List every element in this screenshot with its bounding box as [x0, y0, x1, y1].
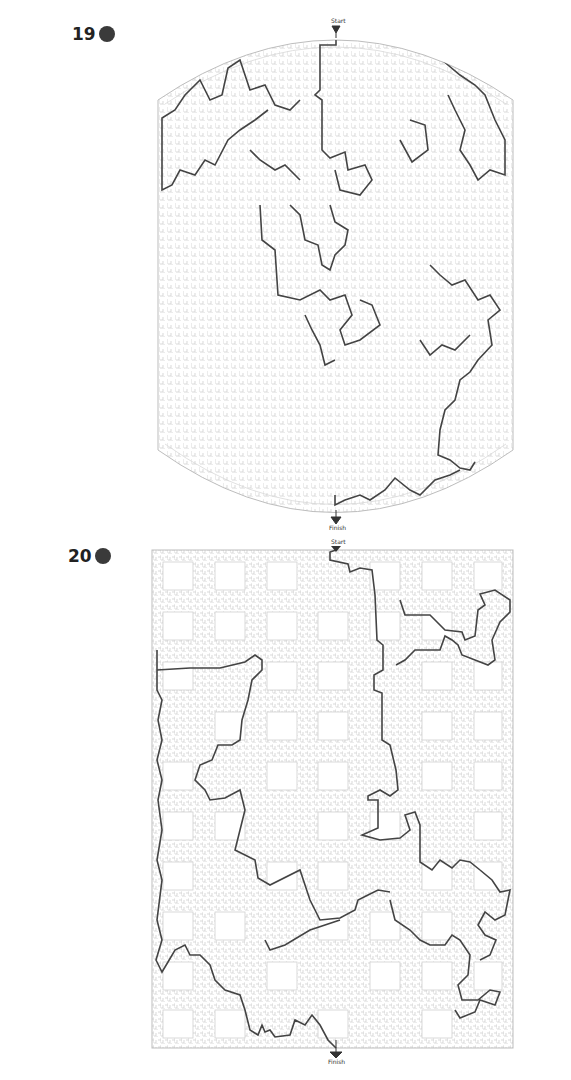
finish-label: Finish	[329, 524, 346, 531]
finish-label: Finish	[328, 1058, 345, 1065]
start-label: Start	[331, 17, 346, 24]
maze-canvas: Start Finish	[0, 0, 571, 1080]
maze-19: Start Finish	[158, 17, 513, 531]
start-label: Start	[331, 538, 346, 545]
maze-19-start-marker: Start	[331, 17, 346, 38]
maze-20: Start Finish	[152, 538, 513, 1065]
maze-19-finish-marker: Finish	[329, 510, 346, 531]
